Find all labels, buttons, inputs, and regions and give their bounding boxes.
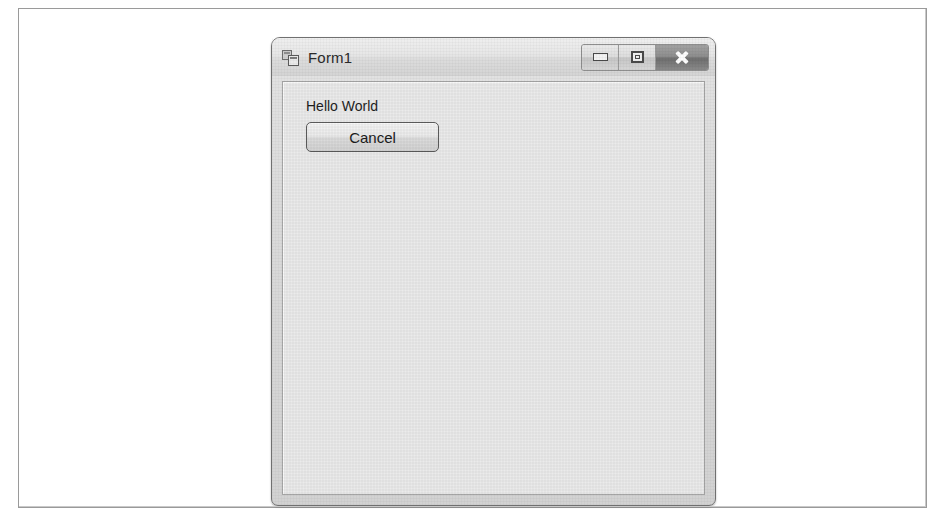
title-bar[interactable]: Form1 — [272, 38, 715, 76]
icon-window-front — [288, 55, 299, 66]
form-client-area: Hello World Cancel — [282, 81, 705, 495]
cancel-button[interactable]: Cancel — [306, 122, 439, 152]
page-frame: Form1 Hello World Cancel — [18, 8, 927, 508]
form-window: Form1 Hello World Cancel — [271, 37, 716, 506]
hello-world-label: Hello World — [306, 98, 378, 114]
maximize-button[interactable] — [619, 45, 656, 70]
windows-form-designer-icon — [282, 50, 299, 66]
close-icon — [674, 50, 690, 65]
minimize-icon — [593, 53, 608, 61]
window-title: Form1 — [308, 49, 581, 66]
minimize-button[interactable] — [582, 45, 619, 70]
window-controls — [581, 44, 709, 71]
maximize-icon — [631, 51, 644, 63]
close-button[interactable] — [656, 45, 708, 70]
